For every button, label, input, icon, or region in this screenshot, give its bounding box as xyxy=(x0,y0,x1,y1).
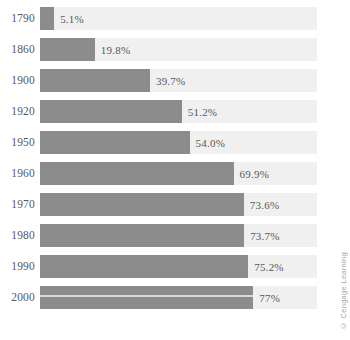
year-axis-label: 1980 xyxy=(0,230,40,242)
horizontal-bar-chart: 17905.1%186019.8%190039.7%192051.2%19505… xyxy=(0,0,350,340)
bar-row: 198073.7% xyxy=(0,224,350,247)
year-axis-label: 1920 xyxy=(0,106,40,118)
bar-fill xyxy=(40,131,190,154)
bar-row: 195054.0% xyxy=(0,131,350,154)
bar-track: 73.7% xyxy=(40,224,317,247)
bar-track: 54.0% xyxy=(40,131,317,154)
bar-value-label: 54.0% xyxy=(196,137,225,148)
year-axis-label: 2000 xyxy=(0,292,40,304)
bar-fill xyxy=(40,100,182,123)
bar-row: 197073.6% xyxy=(0,193,350,216)
chart-plot-area: 17905.1%186019.8%190039.7%192051.2%19505… xyxy=(0,7,350,317)
bar-fill xyxy=(40,69,150,92)
bar-track: 69.9% xyxy=(40,162,317,185)
bar-row: 192051.2% xyxy=(0,100,350,123)
bar-fill xyxy=(40,286,253,309)
bottom-edge-artifact xyxy=(0,334,350,340)
bar-track: 77% xyxy=(40,286,317,309)
bar-value-label: 75.2% xyxy=(254,261,283,272)
year-axis-label: 1950 xyxy=(0,137,40,149)
bar-row: 186019.8% xyxy=(0,38,350,61)
year-axis-label: 1790 xyxy=(0,13,40,25)
bar-value-label: 19.8% xyxy=(101,44,130,55)
bar-row: 200077% xyxy=(0,286,350,309)
bar-fill xyxy=(40,255,248,278)
bar-value-label: 77% xyxy=(259,292,280,303)
year-axis-label: 1860 xyxy=(0,44,40,56)
bar-fill xyxy=(40,193,244,216)
bar-track: 75.2% xyxy=(40,255,317,278)
bar-track: 51.2% xyxy=(40,100,317,123)
year-axis-label: 1970 xyxy=(0,199,40,211)
bar-fill xyxy=(40,7,54,30)
year-axis-label: 1990 xyxy=(0,261,40,273)
bar-fill xyxy=(40,162,234,185)
bar-row: 199075.2% xyxy=(0,255,350,278)
bar-track: 5.1% xyxy=(40,7,317,30)
bar-row: 17905.1% xyxy=(0,7,350,30)
bar-row: 196069.9% xyxy=(0,162,350,185)
year-axis-label: 1900 xyxy=(0,75,40,87)
bar-row: 190039.7% xyxy=(0,69,350,92)
bar-fill xyxy=(40,38,95,61)
bar-value-label: 51.2% xyxy=(188,106,217,117)
bar-value-label: 73.7% xyxy=(250,230,279,241)
copyright-credit: © Cengage Learning xyxy=(339,252,348,330)
bar-track: 73.6% xyxy=(40,193,317,216)
year-axis-label: 1960 xyxy=(0,168,40,180)
bar-fill xyxy=(40,224,244,247)
bar-value-label: 5.1% xyxy=(60,13,84,24)
bar-value-label: 39.7% xyxy=(156,75,185,86)
bar-value-label: 69.9% xyxy=(240,168,269,179)
bar-track: 19.8% xyxy=(40,38,317,61)
bar-track: 39.7% xyxy=(40,69,317,92)
bar-value-label: 73.6% xyxy=(250,199,279,210)
